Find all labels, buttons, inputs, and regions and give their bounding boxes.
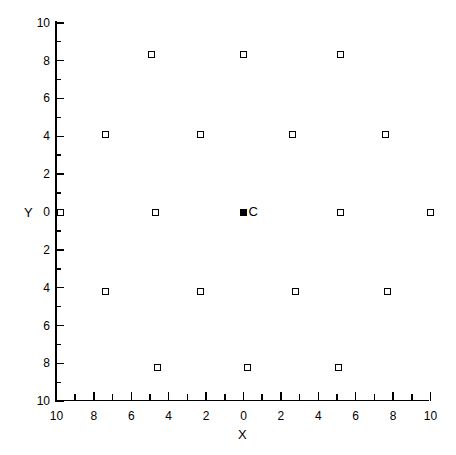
data-point-marker	[427, 209, 434, 216]
y-tick-minor	[55, 154, 61, 156]
data-point-marker	[382, 131, 389, 138]
data-point-marker	[197, 288, 204, 295]
x-tick-minor	[74, 394, 76, 401]
x-tick-minor	[299, 394, 301, 401]
y-tick-minor	[55, 79, 61, 81]
y-tick-major	[55, 287, 64, 289]
x-tick-major	[205, 392, 207, 401]
y-tick-label: 8	[20, 55, 50, 67]
y-tick-label: 6	[20, 92, 50, 104]
y-tick-minor	[55, 344, 61, 346]
y-tick-major	[55, 136, 64, 138]
y-tick-label: 6	[20, 320, 50, 332]
y-tick-label: 2	[20, 168, 50, 180]
data-point-marker	[337, 51, 344, 58]
y-tick-label: 4	[20, 130, 50, 142]
y-tick-label: 10	[20, 17, 50, 29]
y-tick-label: 4	[20, 282, 50, 294]
x-tick-major	[318, 392, 320, 401]
data-point-marker	[148, 51, 155, 58]
x-axis-title: X	[238, 428, 247, 441]
x-tick-major	[355, 392, 357, 401]
x-tick-major	[280, 392, 282, 401]
x-tick-label: 2	[191, 410, 221, 422]
x-tick-label: 4	[303, 410, 333, 422]
y-tick-minor	[55, 117, 61, 119]
x-tick-minor	[187, 394, 189, 401]
x-tick-label: 0	[229, 410, 259, 422]
y-tick-major	[55, 325, 64, 327]
y-tick-minor	[55, 268, 61, 270]
x-tick-major	[56, 392, 58, 401]
x-tick-label: 10	[42, 410, 72, 422]
x-tick-minor	[261, 394, 263, 401]
data-point-marker	[154, 364, 161, 371]
data-point-marker	[240, 51, 247, 58]
data-point-marker	[102, 288, 109, 295]
y-tick-minor	[55, 41, 61, 43]
data-point-marker	[57, 209, 64, 216]
x-tick-minor	[374, 394, 376, 401]
y-tick-label: 10	[20, 395, 50, 407]
y-tick-major	[55, 22, 64, 24]
y-tick-major	[55, 98, 64, 100]
scatter-plot: 1086420246810 1086420246810 Y X C	[0, 0, 456, 455]
x-tick-label: 10	[416, 410, 446, 422]
y-tick-minor	[55, 306, 61, 308]
y-tick-label: 2	[20, 244, 50, 256]
x-tick-label: 8	[378, 410, 408, 422]
x-tick-minor	[336, 394, 338, 401]
center-marker	[240, 209, 247, 216]
y-axis-title: Y	[24, 206, 33, 219]
x-tick-major	[430, 392, 432, 401]
data-point-marker	[384, 288, 391, 295]
data-point-marker	[244, 364, 251, 371]
data-point-marker	[337, 209, 344, 216]
x-tick-label: 2	[266, 410, 296, 422]
data-point-marker	[335, 364, 342, 371]
data-point-marker	[152, 209, 159, 216]
y-tick-major	[55, 173, 64, 175]
data-point-marker	[289, 131, 296, 138]
x-tick-major	[93, 392, 95, 401]
x-tick-minor	[224, 394, 226, 401]
y-tick-major	[55, 60, 64, 62]
center-marker-label: C	[249, 205, 258, 218]
x-tick-major	[392, 392, 394, 401]
y-tick-major	[55, 249, 64, 251]
y-tick-major	[55, 363, 64, 365]
y-tick-major	[55, 400, 64, 402]
data-point-marker	[292, 288, 299, 295]
x-tick-label: 4	[154, 410, 184, 422]
y-tick-minor	[55, 192, 61, 194]
y-tick-minor	[55, 382, 61, 384]
x-tick-minor	[112, 394, 114, 401]
x-tick-minor	[149, 394, 151, 401]
data-point-marker	[197, 131, 204, 138]
x-tick-label: 8	[79, 410, 109, 422]
x-tick-major	[131, 392, 133, 401]
x-tick-major	[243, 392, 245, 401]
x-tick-minor	[411, 394, 413, 401]
x-tick-label: 6	[341, 410, 371, 422]
data-point-marker	[102, 131, 109, 138]
x-tick-major	[168, 392, 170, 401]
x-tick-label: 6	[116, 410, 146, 422]
y-tick-label: 8	[20, 357, 50, 369]
y-tick-minor	[55, 230, 61, 232]
